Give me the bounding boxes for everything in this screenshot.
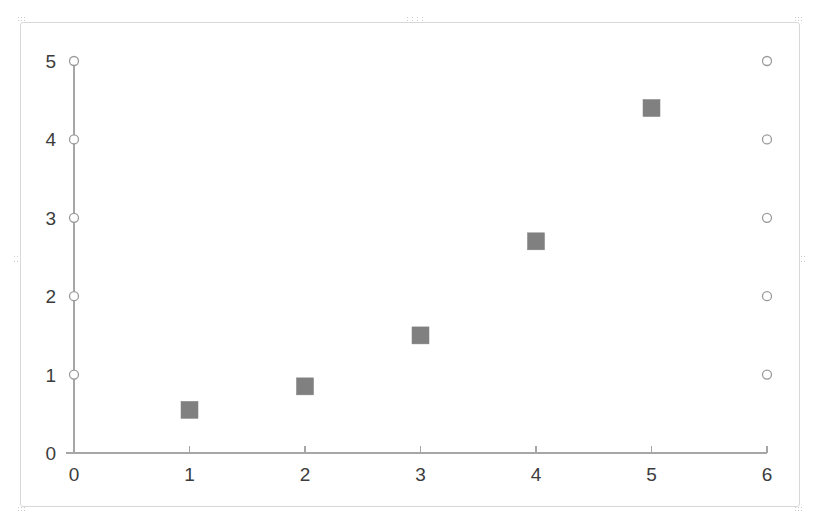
x-tick-label-5: 5 xyxy=(646,464,657,485)
data-point-square[interactable] xyxy=(528,233,545,250)
resize-handle-middle-right[interactable] xyxy=(800,254,807,263)
data-point-circle[interactable] xyxy=(70,57,79,66)
data-point-circle[interactable] xyxy=(763,370,772,379)
data-point-circle[interactable] xyxy=(70,135,79,144)
data-point-square[interactable] xyxy=(412,327,429,344)
x-tick-label-1: 1 xyxy=(184,464,195,485)
data-point-circle[interactable] xyxy=(763,292,772,301)
x-tick-label-4: 4 xyxy=(531,464,542,485)
series-right-open-circles xyxy=(763,57,772,380)
ticks-group xyxy=(66,446,767,453)
y-tick-label-3: 3 xyxy=(45,208,56,229)
x-tick-label-0: 0 xyxy=(69,464,80,485)
scatter-plot-area[interactable]: 0123456012345 xyxy=(21,23,801,508)
data-series-group xyxy=(70,57,772,419)
resize-handle-middle-left[interactable] xyxy=(13,254,20,263)
y-tick-label-2: 2 xyxy=(45,286,56,307)
y-tick-label-1: 1 xyxy=(45,365,56,386)
axes-group xyxy=(74,61,767,453)
data-point-square[interactable] xyxy=(643,100,660,117)
data-point-circle[interactable] xyxy=(70,370,79,379)
data-point-circle[interactable] xyxy=(763,213,772,222)
data-point-square[interactable] xyxy=(297,378,314,395)
scatter-plot-svg: 0123456012345 xyxy=(21,23,801,508)
embedded-chart-object[interactable]: 0123456012345 xyxy=(20,22,800,507)
y-tick-label-4: 4 xyxy=(45,129,56,150)
data-point-circle[interactable] xyxy=(763,135,772,144)
x-tick-label-2: 2 xyxy=(300,464,311,485)
series-data-squares xyxy=(181,100,660,419)
x-tick-label-6: 6 xyxy=(762,464,773,485)
data-point-circle[interactable] xyxy=(763,57,772,66)
tick-labels-group: 0123456012345 xyxy=(45,51,772,485)
y-tick-label-0: 0 xyxy=(45,443,56,464)
x-tick-label-3: 3 xyxy=(415,464,426,485)
data-point-circle[interactable] xyxy=(70,213,79,222)
data-point-square[interactable] xyxy=(181,401,198,418)
data-point-circle[interactable] xyxy=(70,292,79,301)
resize-handle-top-left[interactable] xyxy=(17,16,26,23)
y-tick-label-5: 5 xyxy=(45,51,56,72)
resize-handle-top-center[interactable] xyxy=(405,16,425,23)
resize-handle-top-right[interactable] xyxy=(794,16,803,23)
